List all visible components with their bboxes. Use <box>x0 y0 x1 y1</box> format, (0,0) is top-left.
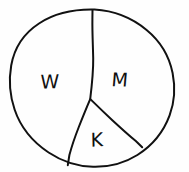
pie-chart-figure: W M K <box>0 0 189 172</box>
pie-divider-lower-left <box>68 100 90 166</box>
pie-divider-top <box>90 10 93 99</box>
pie-slice-label-m: M <box>111 70 130 89</box>
pie-slice-label-w: W <box>40 72 60 92</box>
pie-slice-label-k: K <box>90 130 103 150</box>
